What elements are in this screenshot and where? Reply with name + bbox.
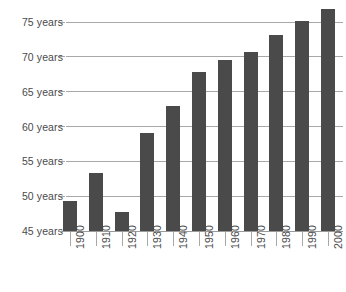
x-axis-label-1990: 1990 — [306, 225, 318, 249]
x-axis-label-1900: 1900 — [74, 225, 86, 249]
chart-xaxis-layer: 1900191019201930194019501960197019801990… — [0, 0, 346, 292]
x-axis-tick — [96, 232, 97, 246]
x-axis-tick — [199, 232, 200, 246]
x-axis-label-1910: 1910 — [100, 225, 112, 249]
x-axis-tick — [147, 232, 148, 246]
x-axis-label-1980: 1980 — [280, 225, 292, 249]
x-axis-label-1920: 1920 — [126, 225, 138, 249]
x-axis-label-1950: 1950 — [203, 225, 215, 249]
x-axis-tick — [302, 232, 303, 246]
x-axis-tick — [173, 232, 174, 246]
x-axis-tick — [225, 232, 226, 246]
x-axis-label-1960: 1960 — [229, 225, 241, 249]
x-axis-label-1970: 1970 — [255, 225, 267, 249]
x-axis-tick — [328, 232, 329, 246]
x-axis-label-1940: 1940 — [177, 225, 189, 249]
x-axis-tick — [276, 232, 277, 246]
x-axis-tick — [251, 232, 252, 246]
bar-chart: 45 years50 years55 years60 years65 years… — [0, 0, 346, 292]
x-axis-tick — [122, 232, 123, 246]
x-axis-tick — [70, 232, 71, 246]
x-axis-label-1930: 1930 — [151, 225, 163, 249]
x-axis-label-2000: 2000 — [332, 225, 344, 249]
